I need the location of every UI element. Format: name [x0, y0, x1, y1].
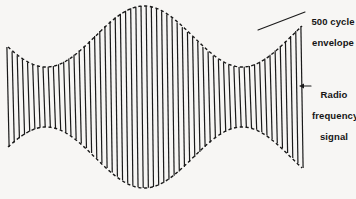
carrier-line: [110, 21, 112, 172]
carrier-line: [280, 46, 282, 148]
envelope-label-line-2: envelope: [310, 38, 356, 49]
carrier-line: [260, 62, 262, 133]
carrier-line: [285, 41, 287, 153]
carrier-line: [33, 65, 35, 130]
carrier-line: [12, 52, 14, 143]
carrier-line: [53, 66, 55, 128]
carrier-line: [84, 46, 86, 148]
carrier-line: [17, 56, 19, 139]
carrier-line: [177, 22, 179, 171]
carrier-line: [301, 26, 303, 168]
carrier-line: [275, 51, 277, 144]
carrier-line: [291, 36, 293, 158]
envelope-curves: [8, 6, 302, 188]
carrier-line: [229, 65, 231, 130]
carrier-line: [100, 31, 102, 163]
carrier-line: [270, 55, 272, 139]
carrier-line: [296, 31, 298, 163]
carrier-line: [131, 8, 133, 185]
carrier-line: [198, 42, 200, 152]
waveform-svg: [0, 0, 356, 199]
carrier-line: [172, 18, 174, 176]
carrier-line: [89, 41, 91, 153]
am-waveform-figure: 500 cycle envelope Radio frequency signa…: [0, 0, 356, 199]
carrier-line: [58, 64, 60, 130]
carrier-line: [120, 14, 122, 181]
carrier-line: [224, 62, 226, 131]
carrier-line: [239, 67, 241, 127]
label-500-cycle-envelope: 500 cycle envelope: [310, 6, 356, 59]
carrier-line: [151, 7, 153, 187]
rf-label-line-2: frequency: [312, 111, 356, 122]
carrier-line: [234, 66, 236, 128]
carrier-line: [38, 66, 40, 128]
carrier-line: [69, 59, 71, 136]
carrier-line: [167, 14, 169, 179]
carrier-line: [244, 67, 246, 127]
envelope-leader-line: [258, 12, 305, 30]
carrier-line: [254, 64, 256, 130]
carrier-line: [43, 67, 45, 127]
rf-label-line-1: Radio: [312, 90, 356, 101]
radio-frequency-carrier-lines: [7, 6, 303, 188]
carrier-line: [64, 62, 66, 133]
carrier-line: [213, 56, 215, 139]
carrier-line: [146, 6, 148, 188]
carrier-line: [48, 67, 50, 127]
carrier-line: [182, 27, 184, 167]
carrier-line: [95, 36, 97, 158]
carrier-line: [203, 47, 205, 147]
annotation-leader-lines: [258, 12, 311, 89]
carrier-line: [126, 11, 128, 184]
envelope-curve-upper: [8, 6, 302, 67]
carrier-line: [187, 32, 189, 162]
envelope-curve-lower: [8, 127, 302, 188]
carrier-line: [74, 55, 76, 139]
carrier-line: [193, 37, 195, 157]
envelope-label-line-1: 500 cycle: [310, 17, 356, 28]
carrier-line: [141, 6, 143, 188]
carrier-line: [136, 7, 138, 187]
carrier-line: [7, 47, 9, 147]
carrier-line: [156, 9, 158, 185]
carrier-line: [265, 59, 267, 136]
carrier-line: [79, 51, 81, 144]
carrier-line: [162, 11, 164, 182]
carrier-line: [28, 62, 30, 131]
carrier-line: [115, 17, 117, 176]
carrier-line: [22, 59, 24, 134]
rf-label-line-3: signal: [312, 132, 356, 143]
carrier-line: [208, 52, 210, 143]
carrier-line: [105, 26, 107, 168]
label-radio-frequency-signal: Radio frequency signal: [312, 79, 356, 153]
carrier-line: [249, 66, 251, 128]
carrier-line: [218, 59, 220, 134]
